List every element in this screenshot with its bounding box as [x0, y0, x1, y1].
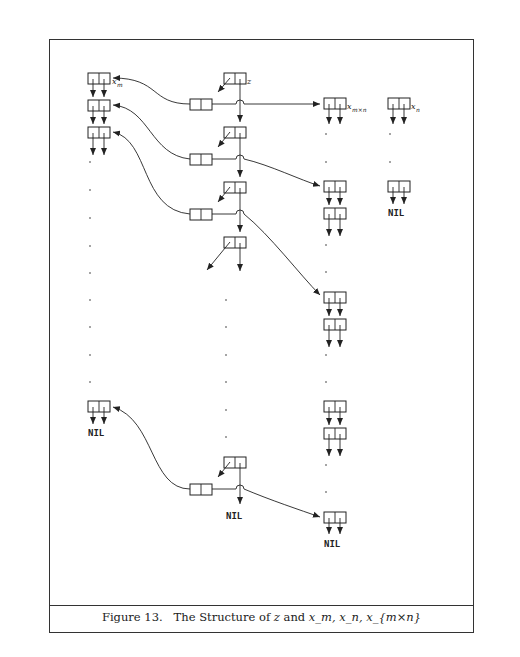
svg-text:z: z [246, 77, 252, 86]
svg-text:NIL: NIL [226, 511, 243, 521]
svg-text:m: m [117, 81, 123, 88]
xm-column: xm NIL [88, 73, 123, 438]
caption-x-terms: x_m, x_n, x_{m×n} [309, 610, 421, 624]
xn-column: xn NIL [388, 98, 420, 218]
svg-text:NIL: NIL [388, 208, 405, 218]
figure-caption: Figure 13. The Structure of z and x_m, x… [49, 610, 474, 624]
caption-text: The Structure of [174, 610, 271, 624]
caption-and: and [284, 610, 306, 624]
caption-divider [49, 605, 474, 606]
z-spine: z NIL [190, 73, 252, 521]
xmn-column: xm×n NIL [324, 98, 367, 549]
svg-text:NIL: NIL [88, 428, 105, 438]
structure-diagram: xm NIL z [0, 0, 520, 657]
svg-text:NIL: NIL [324, 539, 341, 549]
xmn-links [212, 100, 320, 517]
xm-links [113, 78, 190, 489]
svg-text:n: n [416, 106, 420, 113]
figure-number: Figure 13. [102, 610, 163, 624]
caption-z: z [274, 610, 280, 624]
svg-text:m×n: m×n [352, 106, 367, 113]
